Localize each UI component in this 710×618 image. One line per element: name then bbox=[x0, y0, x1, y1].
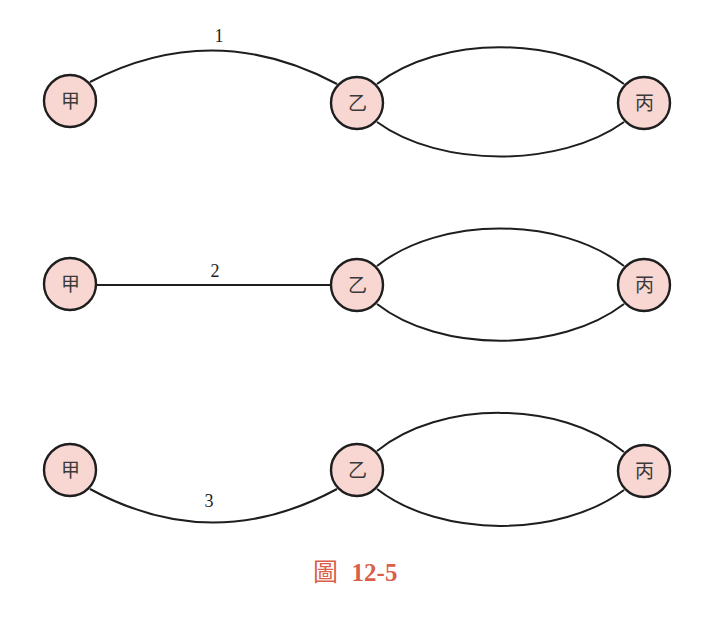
node-bing: 丙 bbox=[618, 445, 670, 497]
edge-yi-bing-upper bbox=[377, 229, 624, 267]
edge-yi-bing-lower bbox=[377, 122, 624, 157]
network-diagram: 1 甲 乙 丙 2 甲 乙 丙 bbox=[0, 0, 710, 618]
svg-text:乙: 乙 bbox=[348, 274, 367, 296]
figure-caption-number: 12-5 bbox=[352, 559, 398, 586]
node-yi: 乙 bbox=[331, 444, 383, 496]
edge-yi-bing-upper bbox=[377, 413, 624, 452]
diagram-row-3: 3 甲 乙 丙 bbox=[44, 413, 670, 526]
diagram-row-1: 1 甲 乙 丙 bbox=[44, 26, 670, 157]
figure-caption: 圖12-5 bbox=[0, 552, 710, 588]
edge-yi-bing-lower bbox=[377, 304, 624, 341]
svg-text:丙: 丙 bbox=[635, 274, 654, 296]
node-yi: 乙 bbox=[331, 259, 383, 311]
node-bing: 丙 bbox=[618, 259, 670, 311]
edge-label-2: 2 bbox=[211, 261, 220, 281]
svg-text:丙: 丙 bbox=[635, 92, 654, 114]
diagram-row-2: 2 甲 乙 丙 bbox=[44, 229, 670, 341]
edge-label-3: 3 bbox=[205, 491, 214, 511]
svg-text:甲: 甲 bbox=[61, 459, 80, 481]
edge-label-1: 1 bbox=[215, 26, 224, 46]
node-jia: 甲 bbox=[44, 444, 96, 496]
edge-1-jia-yi bbox=[90, 50, 337, 84]
edge-3-jia-yi bbox=[90, 489, 337, 523]
svg-text:乙: 乙 bbox=[348, 92, 367, 114]
svg-text:乙: 乙 bbox=[348, 459, 367, 481]
edge-yi-bing-lower bbox=[377, 489, 624, 526]
node-jia: 甲 bbox=[44, 75, 96, 127]
svg-text:甲: 甲 bbox=[61, 90, 80, 112]
svg-text:丙: 丙 bbox=[635, 460, 654, 482]
node-jia: 甲 bbox=[44, 258, 96, 310]
node-yi: 乙 bbox=[331, 77, 383, 129]
figure-caption-prefix: 圖 bbox=[313, 558, 338, 587]
node-bing: 丙 bbox=[618, 77, 670, 129]
svg-text:甲: 甲 bbox=[61, 273, 80, 295]
edge-yi-bing-upper bbox=[377, 47, 624, 84]
